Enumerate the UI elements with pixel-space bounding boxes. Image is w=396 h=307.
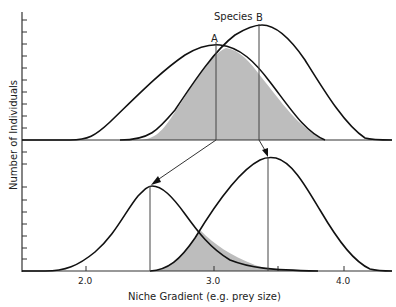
lower-curve-a [22,186,318,271]
x-tick-label-2: 2.0 [78,276,93,286]
displacement-arrow-a [151,140,216,185]
x-tick-label-4: 4.0 [336,276,351,286]
lower-overlap-region [150,230,318,271]
species-a-label: A [211,33,218,44]
x-tick-label-3: 3.0 [206,276,221,286]
displacement-arrow-b [259,140,268,157]
x-axis-label: Niche Gradient (e.g. prey size) [128,291,281,302]
y-ticks-lower [22,152,27,259]
niche-diagram: Species A B 2.0 3.0 4.0 Niche Gradient (… [0,0,396,307]
y-axis-label: Number of Individuals [8,80,19,190]
y-ticks-upper [22,20,27,128]
upper-overlap-region [140,48,325,140]
species-label: Species [214,11,253,22]
species-b-label: B [256,12,263,23]
